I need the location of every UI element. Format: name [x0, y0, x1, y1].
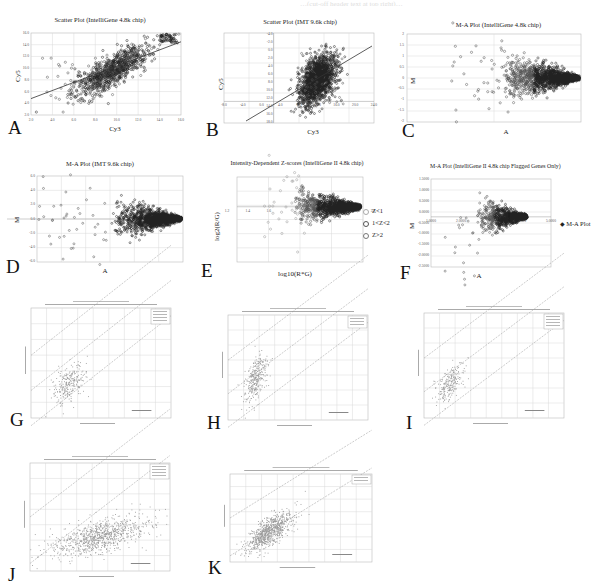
svg-text:-2.0000: -2.0000 — [418, 253, 429, 257]
svg-text:-1.5: -1.5 — [398, 108, 404, 112]
svg-text:1.5000: 1.5000 — [419, 177, 429, 181]
svg-text:1.5: 1.5 — [400, 43, 405, 47]
svg-text:16.0: 16.0 — [266, 112, 272, 116]
svg-text:0.0: 0.0 — [31, 217, 36, 221]
svg-text:8.0: 8.0 — [25, 78, 30, 82]
svg-text:-1.5000: -1.5000 — [418, 242, 429, 246]
svg-text:20.0: 20.0 — [352, 103, 358, 107]
svg-text:-1.0000: -1.0000 — [418, 231, 429, 235]
compensated-mean-plot-j — [0, 450, 210, 588]
x-axis-label: A — [95, 267, 115, 275]
panel-i: I — [396, 295, 596, 455]
svg-text:-2.0: -2.0 — [29, 231, 35, 235]
svg-text:-2.0: -2.0 — [267, 40, 273, 44]
panel-letter: I — [406, 413, 412, 432]
y-axis-label: log2(R/G) — [213, 212, 221, 241]
svg-text:-4.0: -4.0 — [267, 32, 273, 36]
panel-letter: D — [6, 257, 20, 276]
panel-e: Intensity-Dependent Z-scores (IntelliGen… — [195, 135, 400, 280]
svg-text:-8.0: -8.0 — [221, 103, 227, 107]
svg-text:0.5: 0.5 — [400, 65, 405, 69]
svg-text:0.0000: 0.0000 — [419, 210, 429, 214]
svg-text:12.0: 12.0 — [266, 96, 272, 100]
svg-text:16.0: 16.0 — [333, 103, 339, 107]
ma-plot-f: -2.5000-2.0000-1.5000-1.0000-0.50000.000… — [396, 135, 596, 280]
circle-marker-icon — [363, 233, 369, 239]
panel-k: K — [200, 450, 410, 588]
legend-item: Z<1 — [363, 205, 390, 217]
y-axis-label: M — [409, 78, 417, 84]
panel-letter: F — [400, 263, 411, 282]
panel-letter: J — [8, 565, 15, 584]
svg-text:10.0: 10.0 — [114, 118, 120, 122]
svg-text:10.0: 10.0 — [266, 88, 272, 92]
svg-text:6.0: 6.0 — [25, 90, 30, 94]
svg-text:8.0: 8.0 — [93, 118, 98, 122]
svg-text:16.0: 16.0 — [23, 31, 29, 35]
svg-text:1.0000: 1.0000 — [426, 219, 436, 223]
x-axis-label: log10(R*G) — [275, 270, 315, 278]
panel-c: M-A Plot (IntelliGene 4.8k chip) -2-1.5-… — [396, 0, 596, 140]
svg-text:1.6: 1.6 — [266, 209, 271, 213]
svg-text:2.0: 2.0 — [268, 56, 273, 60]
svg-text:1.4: 1.4 — [246, 209, 251, 213]
circle-marker-icon — [363, 209, 369, 215]
svg-text:4.0: 4.0 — [31, 188, 36, 192]
svg-text:-2.5000: -2.5000 — [418, 264, 429, 268]
legend: Z<1 1<Z<2 Z>2 — [363, 205, 390, 241]
panel-g: G — [0, 295, 200, 455]
circle-marker-icon — [363, 221, 369, 227]
legend-item: ◆ M-A Plot — [560, 218, 591, 230]
svg-text:-4.0: -4.0 — [240, 103, 246, 107]
svg-text:18.0: 18.0 — [266, 120, 272, 124]
svg-text:0.0: 0.0 — [268, 48, 273, 52]
svg-text:2.0: 2.0 — [25, 113, 30, 117]
svg-text:14.0: 14.0 — [156, 118, 162, 122]
svg-text:8.0: 8.0 — [268, 80, 273, 84]
compensated-mean-plot-i — [396, 295, 596, 455]
svg-text:0.5000: 0.5000 — [419, 199, 429, 203]
scatter-plot-b: -8.0-4.00.04.08.012.016.020.024.018.016.… — [200, 0, 400, 140]
svg-text:5.0000: 5.0000 — [546, 219, 556, 223]
svg-text:6.0: 6.0 — [268, 72, 273, 76]
compensated-mean-plot-g — [0, 295, 200, 455]
svg-text:2.0: 2.0 — [31, 202, 36, 206]
scatter-plot-a: 2.04.06.08.010.012.014.016.02.04.06.08.0… — [0, 0, 200, 140]
panel-d: M-A Plot (IMT 9.6k chip) -6.0-4.0-2.00.0… — [0, 135, 200, 280]
svg-text:4.0: 4.0 — [25, 101, 30, 105]
x-axis-label: Cy3 — [100, 125, 130, 133]
ma-plot-d: -6.0-4.0-2.00.02.04.06.0 — [0, 135, 200, 280]
svg-text:-6.0: -6.0 — [29, 259, 35, 263]
svg-text:16.0: 16.0 — [178, 118, 184, 122]
y-axis-label: M — [408, 223, 416, 229]
svg-text:1.0000: 1.0000 — [419, 188, 429, 192]
svg-text:4.0: 4.0 — [268, 64, 273, 68]
svg-text:-4.0: -4.0 — [29, 245, 35, 249]
svg-text:4.0: 4.0 — [278, 103, 283, 107]
svg-text:2.0000: 2.0000 — [456, 219, 466, 223]
svg-text:0.0: 0.0 — [259, 103, 264, 107]
y-axis-label: Cy5 — [217, 78, 225, 90]
svg-text:12.0: 12.0 — [23, 54, 29, 58]
svg-text:4.0: 4.0 — [50, 118, 55, 122]
panel-letter: E — [201, 261, 213, 280]
svg-text:2.0: 2.0 — [29, 118, 34, 122]
svg-text:24.0: 24.0 — [371, 103, 377, 107]
compensated-mean-plot-k — [200, 450, 410, 588]
x-axis-label: A — [469, 272, 489, 280]
panel-letter: H — [207, 413, 221, 432]
panel-a: Scatter Plot (IntelliGene 4.8k chip) 2.0… — [0, 0, 200, 140]
svg-text:2: 2 — [402, 32, 404, 36]
legend: ◆ M-A Plot — [560, 218, 591, 230]
panel-b: Scatter Plot (IMT 9.6k chip) -8.0-4.00.0… — [200, 0, 400, 140]
panel-f: M-A Plot (IntelliGene II 4.8k chip Flagg… — [396, 135, 596, 280]
svg-text:6.0: 6.0 — [72, 118, 77, 122]
panel-letter: G — [10, 410, 24, 429]
svg-text:6.0: 6.0 — [31, 174, 36, 178]
legend-item: 1<Z<2 — [363, 217, 390, 229]
y-axis-label: Cy5 — [14, 70, 22, 82]
svg-text:14.0: 14.0 — [23, 43, 29, 47]
svg-text:1.2: 1.2 — [225, 209, 230, 213]
y-axis-label: M — [13, 217, 21, 223]
panel-letter: K — [208, 558, 222, 577]
